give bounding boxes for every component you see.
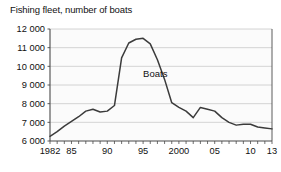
x-tick-label: 1982 [40,146,61,156]
y-tick-label: 11 000 [17,43,45,53]
y-tick-label: 10 000 [17,62,45,72]
fishing-fleet-chart-figure: Fishing fleet, number of boats 6 0007 00… [0,0,281,172]
x-tick-label: 10 [245,146,255,156]
x-tick-label: 05 [210,146,220,156]
y-tick-label: 9 000 [22,80,45,90]
series-annotation-boats: Boats [143,68,168,79]
y-tick-label: 8 000 [22,99,45,109]
x-tick-label: 13 [267,146,277,156]
y-tick-label: 7 000 [22,118,45,128]
x-axis-tick-labels: 19828590952000051013 [40,146,278,156]
y-axis-tick-labels: 6 0007 0008 0009 00010 00011 00012 000 [17,24,45,146]
y-tick-label: 6 000 [22,136,45,146]
x-tick-label: 95 [138,146,148,156]
x-tick-label: 85 [66,146,76,156]
chart-plot-area: 6 0007 0008 0009 00010 00011 00012 000 1… [0,0,281,172]
x-tick-label: 90 [102,146,112,156]
y-tick-label: 12 000 [17,24,45,34]
x-tick-label: 2000 [169,146,190,156]
